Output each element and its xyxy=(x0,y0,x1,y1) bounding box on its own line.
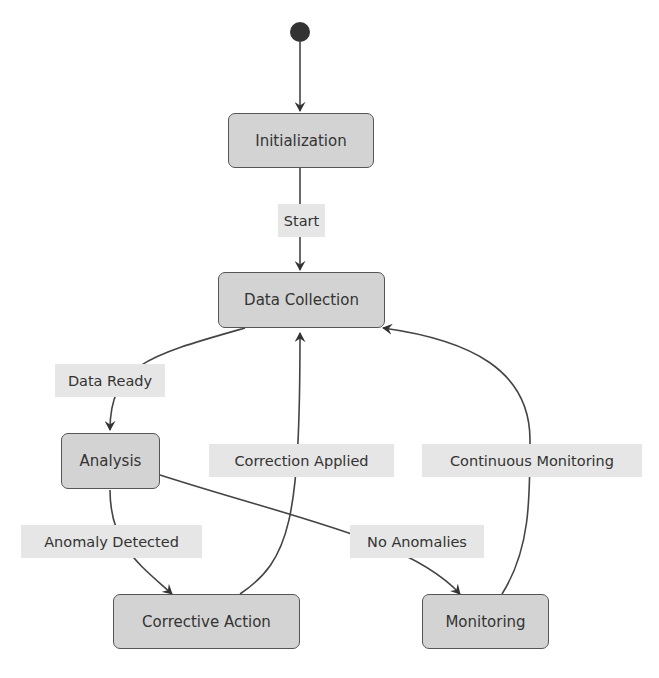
state-monitoring[interactable]: Monitoring xyxy=(422,594,549,649)
state-analysis[interactable]: Analysis xyxy=(61,433,160,489)
state-data-collection[interactable]: Data Collection xyxy=(218,272,385,328)
state-label: Analysis xyxy=(80,452,142,470)
transition-label-data-ready: Data Ready xyxy=(55,364,165,397)
state-label: Monitoring xyxy=(445,613,525,631)
transition-label-start: Start xyxy=(278,204,325,237)
state-label: Data Collection xyxy=(244,291,359,309)
transition-edges xyxy=(0,0,659,678)
transition-label-continuous-monitoring: Continuous Monitoring xyxy=(422,444,642,477)
transition-label-correction-applied: Correction Applied xyxy=(209,444,394,477)
transition-label-anomaly-detected: Anomaly Detected xyxy=(21,525,202,558)
initial-state-node xyxy=(290,22,310,42)
state-corrective-action[interactable]: Corrective Action xyxy=(113,594,300,649)
transition-label-no-anomalies: No Anomalies xyxy=(350,525,484,558)
state-label: Corrective Action xyxy=(142,613,271,631)
state-initialization[interactable]: Initialization xyxy=(228,113,374,168)
state-diagram: Initialization Start Data Collection Dat… xyxy=(0,0,659,678)
state-label: Initialization xyxy=(255,132,346,150)
